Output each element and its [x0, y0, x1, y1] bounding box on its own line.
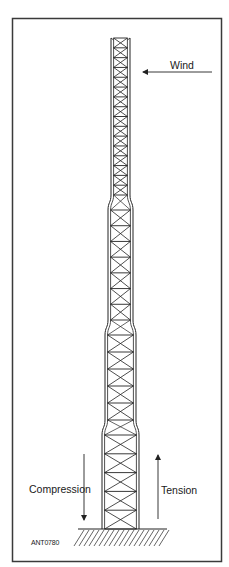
wind-label: Wind [170, 60, 194, 71]
lattice-tower [102, 38, 139, 529]
tower-diagram [0, 0, 229, 567]
ground-hatching [74, 529, 169, 546]
compression-label: Compression [29, 484, 91, 495]
tension-label: Tension [161, 485, 197, 496]
figure-code: ANT0780 [31, 539, 59, 546]
